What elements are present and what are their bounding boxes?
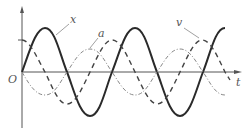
axes — [18, 6, 242, 128]
x-axis-arrow-icon — [234, 70, 242, 74]
leader-a — [90, 38, 98, 48]
motion-graph: x a v O t — [0, 0, 250, 136]
origin-label: O — [8, 74, 17, 85]
label-x: x — [70, 14, 76, 25]
leader-v — [184, 28, 199, 38]
leader-x — [56, 24, 69, 35]
label-v: v — [176, 17, 182, 28]
graph-canvas — [0, 0, 250, 136]
t-axis-label: t — [236, 77, 240, 88]
label-a: a — [98, 28, 105, 39]
y-axis-arrow-icon — [20, 6, 24, 13]
